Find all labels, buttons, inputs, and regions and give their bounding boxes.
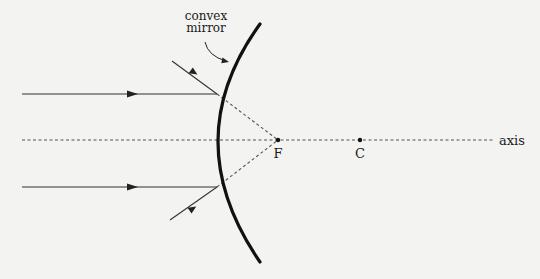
arrow-icon — [127, 91, 138, 98]
reflected-ray-lower — [170, 187, 217, 220]
arrow-icon — [127, 184, 138, 191]
convex-mirror-diagram: convex mirror F C axis — [0, 0, 540, 279]
center-of-curvature-dot — [358, 138, 362, 142]
mirror-label-line2: mirror — [186, 21, 226, 35]
virtual-ray-lower — [217, 140, 278, 187]
center-of-curvature-label: C — [355, 146, 365, 161]
focal-point-dot — [276, 138, 280, 142]
virtual-ray-upper — [217, 94, 278, 140]
arrow-icon — [221, 58, 229, 64]
focal-point-label: F — [273, 146, 282, 161]
reflected-ray-upper — [172, 61, 217, 94]
axis-label: axis — [499, 133, 525, 148]
